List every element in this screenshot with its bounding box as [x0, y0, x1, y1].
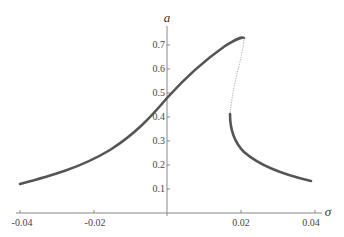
- y-axis-label: a: [164, 10, 171, 25]
- x-tick-label: 0.02: [232, 217, 250, 228]
- frequency-response-chart: -0.04 -0.02 0.02 0.04 0.1 0.2 0.3 0.4 0.…: [0, 0, 344, 237]
- y-tick-label: 0.2: [153, 159, 166, 170]
- y-tick-label: 0.1: [153, 183, 166, 194]
- stable-upper-branch: [20, 37, 244, 184]
- y-tick-label: 0.3: [153, 135, 166, 146]
- y-tick-label: 0.7: [153, 39, 166, 50]
- x-tick-label: -0.02: [85, 217, 106, 228]
- stable-lower-branch: [230, 114, 311, 181]
- y-tick-label: 0.5: [153, 87, 166, 98]
- x-tick-label: 0.04: [302, 217, 320, 228]
- x-axis-label: σ: [325, 204, 332, 219]
- x-tick-label: -0.04: [12, 217, 33, 228]
- y-tick-label: 0.6: [153, 63, 166, 74]
- unstable-middle-branch: [230, 38, 244, 114]
